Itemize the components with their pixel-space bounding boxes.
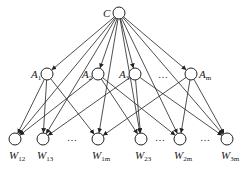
- node-A2: [92, 68, 104, 80]
- edge-A1-to-W12: [18, 79, 45, 133]
- label-W1m: W1m: [92, 149, 111, 163]
- node-W2m: [174, 133, 186, 145]
- label-W3m: W3m: [221, 149, 240, 163]
- node-A1: [41, 68, 53, 80]
- label-W2m: W2m: [174, 149, 193, 163]
- node-W13: [37, 133, 49, 145]
- label-W13: W13: [37, 149, 54, 163]
- edge-C-to-A1: [52, 17, 115, 70]
- ellipsis-0: …: [158, 69, 168, 80]
- label-A3: A3: [118, 68, 130, 82]
- edge-A1-to-W1m: [51, 79, 95, 135]
- node-W3m: [221, 133, 233, 145]
- ellipsis-3: …: [200, 132, 210, 143]
- node-W12: [9, 133, 21, 145]
- label-A1: A1: [30, 68, 42, 82]
- node-W23: [135, 133, 147, 145]
- edge-Am-to-W2m: [181, 80, 190, 133]
- node-Am: [185, 68, 197, 80]
- label-A2: A2: [81, 68, 93, 82]
- ellipsis-1: …: [67, 132, 77, 143]
- label-W12: W12: [9, 149, 26, 163]
- edge-Am-to-W1m: [103, 77, 186, 135]
- edge-A1-to-W13: [43, 80, 46, 133]
- node-A3: [129, 68, 141, 80]
- node-C: [113, 7, 125, 19]
- edge-A3-to-W3m: [140, 77, 222, 135]
- label-W23: W23: [135, 149, 152, 163]
- label-Am: Am: [198, 68, 212, 82]
- edge-A3-to-W13: [48, 77, 130, 135]
- edge-C-to-W13: [46, 18, 116, 134]
- edge-C-to-Am: [124, 17, 187, 70]
- label-C: C: [103, 7, 111, 19]
- node-W1m: [92, 133, 104, 145]
- edge-A3-to-W23: [136, 80, 141, 133]
- network-diagram: CA1A2A3AmW12W13W1mW23W2mW3m…………: [0, 0, 243, 173]
- edge-Am-to-W3m: [194, 79, 224, 134]
- ellipsis-2: …: [155, 132, 165, 143]
